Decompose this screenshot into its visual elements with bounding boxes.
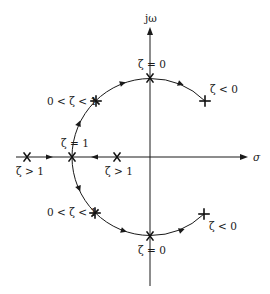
label-bottom-zeta-zero: ζ = 0 — [138, 244, 166, 256]
real-axis-arrow-right-icon — [46, 155, 53, 160]
lower-locus-arc — [72, 157, 204, 236]
label-lower-underdamped: 0 < ζ < 1 — [47, 206, 97, 218]
upper-locus-branch — [72, 79, 205, 158]
label-left-overdamped: ζ > 1 — [16, 165, 44, 177]
label-upper-negative: ζ < 0 — [210, 83, 238, 95]
lower-locus-branch — [72, 157, 204, 236]
label-right-overdamped: ζ > 1 — [105, 165, 133, 177]
real-axis-label: σ — [253, 151, 261, 163]
label-zeta-one: ζ = 1 — [61, 137, 89, 149]
lower-arc-arrow-icon-1 — [75, 185, 83, 193]
imaginary-axis-arrow-icon — [147, 27, 153, 35]
label-lower-negative: ζ < 0 — [209, 220, 237, 232]
real-axis-arrow-icon — [240, 154, 248, 160]
imaginary-axis-label: jω — [143, 12, 157, 24]
upper-arc-arrow-icon-1 — [75, 119, 83, 127]
upper-locus-arc — [72, 79, 205, 158]
upper-arc-arrow-icon-2 — [119, 79, 126, 86]
root-locus-diagram: σ jω — [0, 0, 270, 294]
label-top-zeta-zero: ζ = 0 — [138, 58, 166, 70]
real-axis-arrow-left-icon — [91, 155, 98, 160]
lower-arc-arrow-icon-2 — [120, 227, 127, 234]
upper-arc-arrow-icon-3 — [177, 80, 185, 88]
label-upper-underdamped: 0 < ζ < 1 — [47, 95, 97, 107]
